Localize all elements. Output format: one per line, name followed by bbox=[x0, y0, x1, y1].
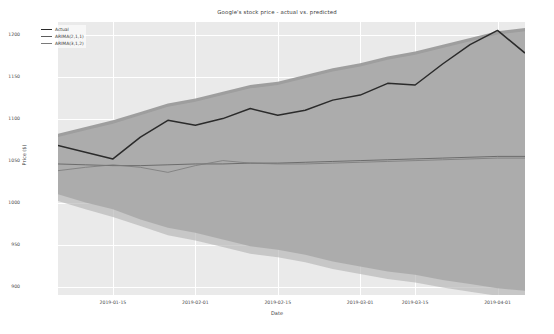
y-tick-label-0: 900 bbox=[0, 284, 20, 289]
y-axis-label: Price ($) bbox=[21, 125, 27, 185]
y-tick-label-2: 1000 bbox=[0, 200, 20, 205]
legend-item-label: Actual bbox=[55, 26, 69, 33]
x-axis-label: Date bbox=[0, 310, 554, 316]
legend-item-0[interactable]: Actual bbox=[41, 26, 84, 33]
legend-swatch-icon-0 bbox=[41, 29, 52, 30]
x-tick-label-4: 2019-03-15 bbox=[380, 300, 450, 305]
chart-figure: Google's stock price - actual vs. predic… bbox=[0, 0, 554, 334]
y-tick-label-5: 1150 bbox=[0, 74, 20, 79]
x-tick-label-5: 2019-04-01 bbox=[463, 300, 533, 305]
legend-item-label: ARIMA(3,1,2) bbox=[55, 40, 84, 47]
plot-area bbox=[58, 22, 525, 295]
chart-title: Google's stock price - actual vs. predic… bbox=[0, 9, 554, 15]
legend-item-1[interactable]: ARIMA(2,1,1) bbox=[41, 33, 84, 40]
x-tick-label-0: 2019-01-15 bbox=[78, 300, 148, 305]
y-tick-label-1: 950 bbox=[0, 242, 20, 247]
legend-item-label: ARIMA(2,1,1) bbox=[55, 33, 84, 40]
legend-item-2[interactable]: ARIMA(3,1,2) bbox=[41, 40, 84, 47]
x-tick-label-2: 2019-02-15 bbox=[243, 300, 313, 305]
legend-swatch-icon-2 bbox=[41, 43, 52, 44]
x-tick-label-1: 2019-02-01 bbox=[160, 300, 230, 305]
confidence-band-1 bbox=[58, 31, 525, 295]
legend-swatch-icon-1 bbox=[41, 36, 52, 37]
y-tick-label-4: 1100 bbox=[0, 116, 20, 121]
y-tick-label-6: 1200 bbox=[0, 32, 20, 37]
y-tick-label-3: 1050 bbox=[0, 158, 20, 163]
series-layer bbox=[58, 22, 525, 295]
chart-legend: ActualARIMA(2,1,1)ARIMA(3,1,2) bbox=[39, 25, 86, 48]
